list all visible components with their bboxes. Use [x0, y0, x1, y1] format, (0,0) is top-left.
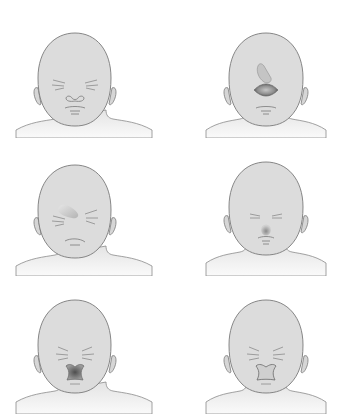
infant-face-illustration	[0, 0, 170, 138]
infant-face-illustration	[170, 276, 340, 414]
panel-2-midline-cleft	[170, 0, 340, 138]
panel-6-median-cleft-lip-light	[170, 276, 340, 414]
panel-5-median-cleft-lip-dark	[0, 276, 170, 414]
infant-face-illustration	[170, 0, 340, 138]
single-nostril-nose	[261, 225, 271, 236]
infant-face-illustration	[0, 138, 170, 276]
panel-4-hypoplastic-nose	[170, 138, 340, 276]
panel-1-normal-face	[0, 0, 170, 138]
infant-face-illustration	[170, 138, 340, 276]
median-cleft-lip	[256, 364, 276, 380]
panel-3-lateral-proboscis	[0, 138, 170, 276]
median-cleft-lip	[66, 364, 84, 380]
infant-face-illustration	[0, 276, 170, 414]
face-illustration-grid	[0, 0, 340, 414]
head	[38, 33, 111, 126]
